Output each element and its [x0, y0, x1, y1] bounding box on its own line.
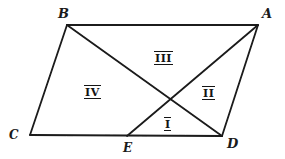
region-label-iii: III: [154, 51, 173, 65]
vertex-label-e: E: [123, 142, 132, 154]
geometry-figure: B A C E D I II III IV: [0, 0, 285, 159]
segment-bottom-edge-cd: [30, 135, 222, 136]
segment-left-edge-bc: [30, 25, 67, 135]
vertex-label-d: D: [227, 137, 238, 150]
vertex-label-c: C: [9, 129, 19, 141]
segment-diagonal-bd: [67, 25, 222, 136]
region-label-i: I: [164, 117, 171, 131]
segment-right-edge-ad: [222, 25, 258, 136]
vertex-label-b: B: [58, 7, 69, 20]
figure-canvas: [0, 0, 285, 159]
vertex-label-a: A: [262, 7, 272, 20]
segment-diagonal-ea: [127, 25, 258, 136]
region-label-iv: IV: [84, 85, 101, 99]
region-label-ii: II: [202, 86, 215, 100]
